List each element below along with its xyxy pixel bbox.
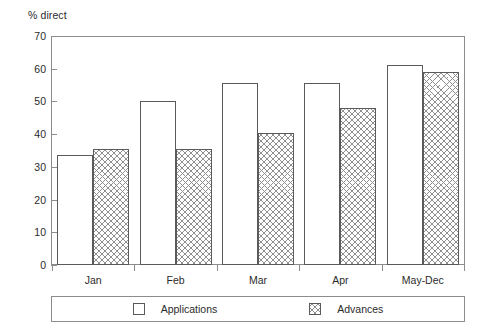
bar-advances-mar (258, 133, 294, 265)
bars-area (52, 37, 464, 265)
legend-label-applications: Applications (161, 303, 218, 315)
y-axis-tick-label: 30 (6, 161, 46, 173)
x-axis-tick-mark (134, 265, 135, 271)
y-axis-tick-label: 0 (6, 259, 46, 271)
bar-applications-apr (304, 83, 340, 265)
bar-group (134, 37, 216, 265)
x-axis-tick-label-apr: Apr (332, 274, 348, 286)
legend-swatch-applications-icon (133, 303, 145, 315)
y-axis-tick-label: 10 (6, 226, 46, 238)
y-axis-tick-labels: 010203040506070 (0, 36, 46, 265)
x-axis-tick-mark (217, 265, 218, 271)
chart-legend: Applications Advances (51, 296, 465, 322)
bar-applications-mar (222, 83, 258, 265)
legend-swatch-advances-icon (309, 303, 321, 315)
bar-group (52, 37, 134, 265)
bar-group (217, 37, 299, 265)
x-axis-tick-mark (52, 265, 53, 271)
bar-applications-feb (140, 101, 176, 265)
bar-advances-feb (176, 149, 212, 265)
legend-item-advances: Advances (309, 303, 383, 315)
x-axis-tick-mark (299, 265, 300, 271)
x-axis-tick-label-feb: Feb (167, 274, 185, 286)
bar-group (382, 37, 464, 265)
bar-advances-apr (340, 108, 376, 265)
y-axis-tick-label: 70 (6, 30, 46, 42)
bar-group (299, 37, 381, 265)
legend-item-applications: Applications (133, 303, 218, 315)
x-axis-tick-label-may-dec: May-Dec (402, 274, 444, 286)
x-axis-tick-mark (464, 265, 465, 271)
x-axis-tick-label-jan: Jan (85, 274, 102, 286)
y-axis-tick-label: 40 (6, 128, 46, 140)
bar-applications-may-dec (387, 65, 423, 265)
x-axis-tick-label-mar: Mar (249, 274, 267, 286)
bar-chart: % direct 010203040506070 JanFebMarAprMay… (0, 0, 490, 329)
x-axis-tick-mark (382, 265, 383, 271)
y-axis-tick-label: 60 (6, 63, 46, 75)
bar-advances-jan (93, 149, 129, 265)
legend-label-advances: Advances (337, 303, 383, 315)
y-axis-tick-label: 50 (6, 95, 46, 107)
bar-advances-may-dec (423, 72, 459, 265)
y-axis-tick-label: 20 (6, 194, 46, 206)
y-axis-title: % direct (28, 9, 67, 21)
bar-applications-jan (57, 155, 93, 265)
